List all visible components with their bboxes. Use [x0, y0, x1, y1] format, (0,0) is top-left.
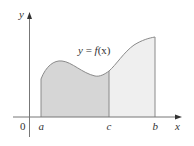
area-under-curve-diagram: y 0 a c b x y = f(x) [0, 0, 194, 146]
point-a-label: a [39, 120, 45, 132]
left-region [41, 61, 109, 117]
point-b-label: b [153, 120, 159, 132]
x-axis-label: x [174, 120, 180, 132]
origin-label: 0 [20, 120, 26, 132]
curve-label-eq: = [83, 44, 95, 56]
y-axis-arrow-icon [27, 12, 32, 19]
x-axis-arrow-icon [175, 115, 182, 120]
right-region [109, 37, 155, 117]
curve-label: y = f(x) [77, 44, 111, 57]
curve-label-arg: (x) [98, 44, 111, 57]
point-c-label: c [107, 120, 112, 132]
y-axis-label: y [18, 8, 24, 20]
